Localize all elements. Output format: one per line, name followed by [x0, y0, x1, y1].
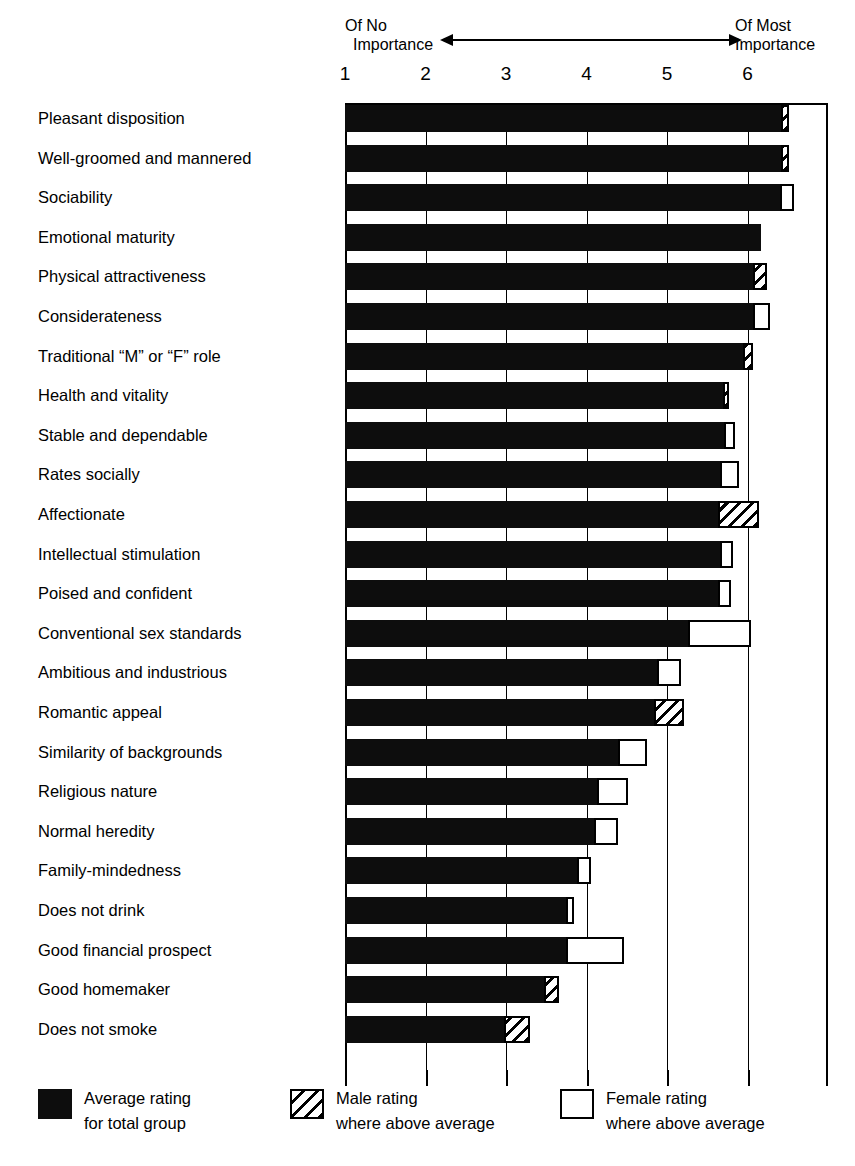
category-label: Family-mindedness — [38, 860, 181, 880]
bar-row — [345, 937, 828, 964]
bar-segment-average — [345, 501, 718, 528]
bar-segment-female — [597, 778, 628, 805]
bar-segment-average — [345, 263, 753, 290]
bar-segment-average — [345, 739, 618, 766]
bar-segment-average — [345, 937, 566, 964]
bar-segment-average — [345, 976, 544, 1003]
category-label: Romantic appeal — [38, 702, 162, 722]
bar-segment-female — [780, 184, 794, 211]
legend-item-text: Male ratingwhere above average — [336, 1086, 495, 1136]
bar-segment-average — [345, 818, 594, 845]
bar-row — [345, 659, 828, 686]
category-label: Poised and confident — [38, 583, 192, 603]
bar-segment-female — [566, 937, 624, 964]
category-label: Health and vitality — [38, 385, 168, 405]
category-label: Traditional “M” or “F” role — [38, 346, 221, 366]
chart-page: Of No Importance Of Most Importance 1234… — [0, 0, 855, 1166]
bar-segment-female — [618, 739, 647, 766]
bar-segment-average — [345, 857, 577, 884]
bar-segment-average — [345, 1016, 504, 1043]
category-label: Conventional sex standards — [38, 623, 242, 643]
bar-segment-average — [345, 778, 597, 805]
bar-segment-male — [718, 501, 759, 528]
bar-segment-male — [723, 382, 729, 409]
bar-segment-female — [577, 857, 591, 884]
legend-item-line2: for total group — [84, 1111, 191, 1136]
category-label: Considerateness — [38, 306, 162, 326]
x-tick-label-1: 1 — [340, 63, 351, 85]
bar-row — [345, 461, 828, 488]
double-headed-arrow-icon — [440, 33, 742, 47]
legend-item-line2: where above average — [606, 1111, 765, 1136]
x-tick-label-3: 3 — [501, 63, 512, 85]
hatched-square-icon — [290, 1089, 324, 1119]
bar-row — [345, 897, 828, 924]
x-tick-label-5: 5 — [662, 63, 673, 85]
bar-row — [345, 857, 828, 884]
bar-segment-female — [720, 461, 739, 488]
bar-segment-average — [345, 224, 761, 251]
bar-row — [345, 778, 828, 805]
scale-header: Of No Importance Of Most Importance 1234… — [0, 0, 855, 100]
legend-item-line1: Female rating — [606, 1086, 765, 1111]
category-label: Physical attractiveness — [38, 266, 206, 286]
bar-row — [345, 105, 828, 132]
plot-area — [345, 103, 828, 1070]
bar-segment-average — [345, 580, 718, 607]
legend-item-text: Average ratingfor total group — [84, 1086, 191, 1136]
bar-row — [345, 501, 828, 528]
category-label: Pleasant disposition — [38, 108, 185, 128]
category-label: Ambitious and industrious — [38, 662, 227, 682]
category-label: Does not smoke — [38, 1019, 157, 1039]
category-label: Intellectual stimulation — [38, 544, 200, 564]
bar-segment-male — [753, 263, 767, 290]
bar-row — [345, 620, 828, 647]
category-label: Stable and dependable — [38, 425, 208, 445]
x-axis-tick-end — [826, 1070, 828, 1086]
bar-segment-average — [345, 382, 723, 409]
bar-row — [345, 818, 828, 845]
bar-segment-average — [345, 659, 657, 686]
bar-segment-average — [345, 303, 753, 330]
bar-segment-male — [544, 976, 559, 1003]
bar-segment-average — [345, 699, 654, 726]
legend-item-line1: Average rating — [84, 1086, 191, 1111]
bar-row — [345, 263, 828, 290]
x-tick-label-4: 4 — [581, 63, 592, 85]
legend-item-line2: where above average — [336, 1111, 495, 1136]
bar-segment-male — [654, 699, 684, 726]
x-axis-tick-3 — [506, 1070, 508, 1086]
arrow-shaft — [450, 39, 732, 41]
bar-segment-average — [345, 422, 724, 449]
bar-segment-male — [504, 1016, 530, 1043]
x-tick-label-2: 2 — [420, 63, 431, 85]
scale-high-line1: Of Most — [735, 16, 855, 35]
legend-item-line1: Male rating — [336, 1086, 495, 1111]
bar-segment-female — [688, 620, 751, 647]
bar-segment-male — [781, 145, 788, 172]
bar-segment-average — [345, 461, 720, 488]
category-label: Similarity of backgrounds — [38, 742, 222, 762]
legend-item-text: Female ratingwhere above average — [606, 1086, 765, 1136]
bar-row — [345, 580, 828, 607]
bar-row — [345, 343, 828, 370]
category-label: Religious nature — [38, 781, 157, 801]
bar-segment-female — [753, 303, 770, 330]
bar-segment-average — [345, 343, 743, 370]
x-axis-tick-labels: 123456 — [0, 63, 855, 87]
x-axis-tick-5 — [667, 1070, 669, 1086]
bar-row — [345, 145, 828, 172]
category-label: Good financial prospect — [38, 940, 211, 960]
category-label: Affectionate — [38, 504, 125, 524]
x-tick-label-6: 6 — [742, 63, 753, 85]
scale-high-label: Of Most Importance — [735, 16, 855, 54]
bar-segment-average — [345, 145, 781, 172]
category-label: Does not drink — [38, 900, 144, 920]
bar-row — [345, 422, 828, 449]
category-label: Sociability — [38, 187, 112, 207]
bar-row — [345, 303, 828, 330]
bar-segment-female — [594, 818, 618, 845]
bar-segment-male — [781, 105, 789, 132]
bar-row — [345, 976, 828, 1003]
bar-segment-average — [345, 620, 688, 647]
